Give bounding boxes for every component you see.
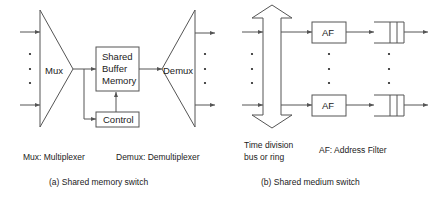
shared-memory-switch: Mux Shared Buffer Memory Control Demux M… <box>20 10 215 187</box>
input-ellipsis-dots <box>29 53 31 84</box>
shared-medium-switch: AF AF Time division <box>242 5 428 187</box>
output-queue-top <box>374 22 404 43</box>
bus-label-line2: bus or ring <box>244 152 284 162</box>
buffer-label-line1: Shared <box>102 51 133 62</box>
caption-b: (b) Shared medium switch <box>261 177 360 187</box>
buffer-label-line2: Buffer <box>102 63 127 74</box>
mux-to-control-arrow <box>84 69 96 119</box>
bus-input-dots <box>251 53 253 84</box>
af-label-top: AF <box>322 27 334 38</box>
af-label-bottom: AF <box>322 100 334 111</box>
mux-label: Mux <box>45 65 63 76</box>
output-queue-bottom <box>374 95 404 116</box>
legend-af: AF: Address Filter <box>319 145 387 155</box>
legend-demux: Demux: Demultiplexer <box>116 152 200 162</box>
buffer-label-line3: Memory <box>102 75 137 86</box>
demux-label: Demux <box>163 65 193 76</box>
output-ellipsis-dots <box>204 53 206 84</box>
time-division-bus-arrow <box>252 5 292 128</box>
legend-mux: Mux: Multiplexer <box>23 152 85 162</box>
control-label: Control <box>103 114 134 125</box>
queue-dots <box>388 53 390 84</box>
caption-a: (a) Shared memory switch <box>49 177 148 187</box>
af-dots <box>328 53 330 84</box>
switch-architectures-diagram: Mux Shared Buffer Memory Control Demux M… <box>0 0 444 199</box>
bus-label-line1: Time division <box>244 140 294 150</box>
